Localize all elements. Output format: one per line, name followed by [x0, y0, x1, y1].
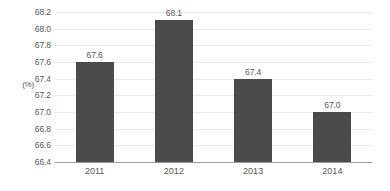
- bar[interactable]: [155, 20, 193, 162]
- bar-value-label: 67.0: [324, 101, 340, 110]
- bar[interactable]: [234, 79, 272, 162]
- y-axis-tick-label: 67.8: [1, 41, 51, 50]
- x-axis-tick-label: 2012: [134, 166, 213, 177]
- bar-slot: 68.1: [134, 12, 213, 162]
- y-axis-tick-label: 67.4: [1, 74, 51, 83]
- y-axis-tick-label: 68.2: [1, 8, 51, 17]
- bar[interactable]: [313, 112, 351, 162]
- y-axis-tick-label: 66.4: [1, 158, 51, 167]
- y-axis: 68.268.067.867.667.467.267.066.866.666.4: [0, 12, 54, 162]
- x-axis-tick-label: 2011: [55, 166, 134, 177]
- bar-value-label: 68.1: [166, 9, 182, 18]
- axis-baseline: [55, 162, 372, 163]
- bar[interactable]: [76, 62, 114, 162]
- bar-slot: 67.6: [55, 12, 134, 162]
- y-axis-tick-label: 66.6: [1, 141, 51, 150]
- plot-area: 67.668.167.467.0: [55, 12, 372, 162]
- bar-chart: (%) 68.268.067.867.667.467.267.066.866.6…: [0, 0, 390, 191]
- bars-layer: 67.668.167.467.0: [55, 12, 372, 162]
- y-axis-tick-label: 67.2: [1, 91, 51, 100]
- x-axis-tick-label: 2014: [293, 166, 372, 177]
- x-axis: 2011201220132014: [55, 166, 372, 182]
- bar-value-label: 67.6: [87, 51, 103, 60]
- bar-slot: 67.4: [214, 12, 293, 162]
- y-axis-tick-label: 68.0: [1, 24, 51, 33]
- y-axis-tick-label: 66.8: [1, 124, 51, 133]
- bar-slot: 67.0: [293, 12, 372, 162]
- x-axis-tick-label: 2013: [214, 166, 293, 177]
- y-axis-tick-label: 67.6: [1, 58, 51, 67]
- bar-value-label: 67.4: [245, 68, 261, 77]
- y-axis-tick-label: 67.0: [1, 108, 51, 117]
